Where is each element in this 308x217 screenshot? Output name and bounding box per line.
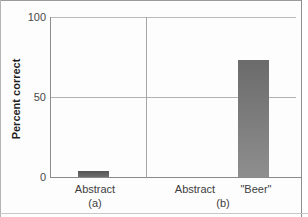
x-axis-line bbox=[50, 177, 302, 178]
panel-label-a: (a) bbox=[48, 197, 142, 209]
figure-margin-right bbox=[302, 0, 308, 217]
bar-panel-b-beer bbox=[238, 60, 269, 177]
figure-border-top bbox=[0, 0, 308, 1]
figure-border-left bbox=[0, 0, 1, 217]
y-tick-label-100: 100 bbox=[12, 11, 46, 23]
x-label-panel-b-beer: "Beer" bbox=[226, 183, 286, 195]
figure-border-bottom bbox=[0, 213, 308, 214]
plot-area bbox=[50, 17, 296, 177]
figure-container: Percent correct 100 50 0 Abstract (a) Ab… bbox=[0, 0, 308, 217]
y-tick-label-0: 0 bbox=[12, 171, 46, 183]
x-label-panel-a-abstract: Abstract bbox=[48, 183, 142, 195]
bar-panel-a-abstract bbox=[78, 171, 109, 177]
panel-label-b: (b) bbox=[176, 197, 270, 209]
y-tick-label-50: 50 bbox=[12, 91, 46, 103]
